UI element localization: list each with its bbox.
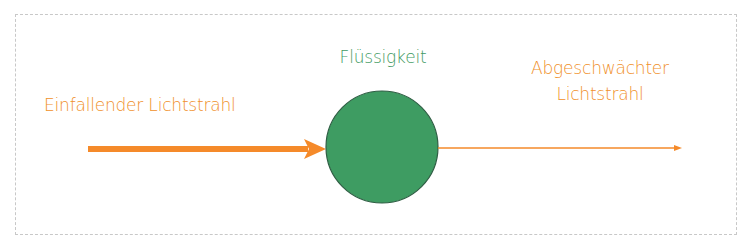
incident-beam-label: Einfallender Lichtstrahl (44, 94, 236, 116)
incident-beam-arrow (88, 139, 326, 159)
liquid-label: Flüssigkeit (318, 46, 448, 68)
attenuated-beam-arrow (438, 145, 682, 151)
diagram-canvas (0, 0, 753, 245)
attenuated-beam-label-line2: Lichtstrahl (480, 81, 720, 107)
liquid-circle (326, 91, 438, 203)
attenuated-beam-label-line1: Abgeschwächter (480, 55, 720, 81)
attenuated-beam-label: Abgeschwächter Lichtstrahl (480, 55, 720, 107)
